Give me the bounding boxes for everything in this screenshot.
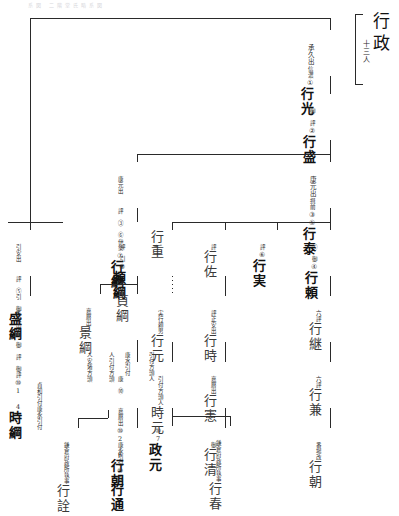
node-n19-order: ⑩7: [154, 427, 161, 443]
node-n9[interactable]: 頼綱 ⑧ 評 引: [112, 230, 125, 301]
node-n5-note-left: 評: [259, 244, 265, 250]
node-n6-name: 行佐: [203, 250, 216, 280]
node-n11-order: ⑩1 4: [14, 379, 21, 411]
annotation-col-n18-dup: 引付方頭人: [148, 352, 154, 382]
node-n4-note-left: ⑤ 御: [311, 244, 317, 262]
line-n21-to-n22: [225, 342, 226, 362]
line-n6-to-n21: [225, 276, 226, 296]
node-n22-note-left: 嘉暦出: [210, 376, 216, 394]
node-n22[interactable]: 行憲 嘉暦出: [203, 362, 216, 424]
annotation-col-n28: 人安堵方頭: [86, 352, 92, 382]
node-n3-note-right: 摂前: [309, 198, 315, 210]
node-n15-note-left: 康永引付: [117, 442, 123, 466]
node-n26-name: 行朝: [308, 460, 321, 490]
annotation-n29: 康水引付: [124, 352, 130, 376]
node-n14-note-left2: 康 ⑩: [117, 376, 123, 394]
annotation-n28: 人安堵方頭: [86, 352, 92, 382]
node-n15-order: ⑩5: [116, 467, 123, 483]
node-n26[interactable]: 行朝 番場改: [308, 428, 321, 490]
node-n14-note-left: 嘉暦出: [117, 408, 123, 426]
gen3-drop-n3: [330, 154, 331, 162]
node-n5[interactable]: 行実 ⑥ 評: [252, 230, 265, 289]
chart-title: 行政: [368, 12, 393, 56]
node-n12-note-left: 嘉暦出: [85, 308, 91, 326]
gen4-drop-n6: [225, 222, 226, 230]
node-n21-note-left: 評正安出: [210, 310, 216, 334]
node-n25[interactable]: 行兼 六評: [308, 362, 321, 418]
line-n24-to-n25: [330, 342, 331, 362]
node-n16-note-left: 鎌倉府政所執事: [63, 442, 69, 484]
annotation-col-n27: 人引付方頭: [108, 352, 114, 382]
node-n19-name: 政元: [148, 443, 161, 473]
gen3-horizontal-bar: [137, 154, 331, 155]
node-n2-note-left: 御 評: [309, 108, 315, 126]
node-n3-order: ③⑤: [308, 211, 315, 227]
node-n25-note-left: 六評: [315, 376, 321, 388]
drop-to-n16: [78, 418, 79, 428]
node-n21-name: 行時: [203, 334, 216, 364]
gen4-left-bar: [8, 222, 63, 223]
bar-to-n16: [78, 418, 108, 419]
line-n10-to-n11: [30, 276, 31, 296]
node-n24[interactable]: 行継 六評: [308, 296, 321, 352]
node-n16-name: 行詮: [56, 484, 69, 514]
line-n17-to-n18: [172, 342, 173, 362]
node-n13[interactable]: 貞綱: [115, 294, 128, 324]
riser-to-n16-bar: [108, 410, 109, 418]
gen-bar-n12-n13: [100, 284, 138, 285]
line-n9-drop: [137, 276, 138, 284]
node-n11[interactable]: 時綱 ⑩1 4 御 評 御評 応長出: [8, 296, 21, 441]
node-n20-note-left: 鎌倉府政所執事: [215, 440, 221, 482]
node-n18-note-left: 引付方頭人: [157, 376, 163, 406]
node-n25-name: 行兼: [308, 388, 321, 418]
gen4-drop-n7: [172, 222, 173, 230]
line-n2-to-gen3-bar: [330, 140, 331, 154]
node-n2-name: 行盛: [302, 135, 315, 165]
node-n24-name: 行継: [308, 322, 321, 352]
node-n15[interactable]: 行通 ⑩5 康永引付: [110, 428, 123, 513]
node-n17-note-left: 実行頼男: [157, 310, 163, 334]
node-n3-note-left: 康元出: [308, 176, 315, 197]
drop-to-n12: [100, 284, 101, 294]
node-n11-note-left: 応長出: [15, 310, 21, 328]
line-n18-drop: [172, 408, 173, 416]
line-n3-to-gen4-bar: [330, 208, 331, 222]
chart-title-annotation: 十三人: [361, 40, 371, 64]
node-n20-name: 行春: [208, 482, 221, 512]
annotation-n18-note: 引付方頭人: [148, 352, 154, 382]
title-bracket-top: [355, 14, 363, 15]
node-n5-order: ⑥: [258, 251, 265, 259]
node-n1-note-right: 信濃: [307, 66, 313, 78]
node-n15-name: 行通: [110, 483, 123, 513]
gen4-horizontal-bar: [172, 222, 331, 223]
node-n12[interactable]: 景綱 嘉暦出: [78, 294, 91, 356]
node-n4[interactable]: 行頼 ④ ⑤ 御: [304, 230, 317, 301]
node-n11-name: 時綱: [8, 411, 21, 441]
node-n16[interactable]: 行詮 鎌倉府政所執事: [56, 428, 69, 514]
node-n19[interactable]: 政元 ⑩7: [148, 426, 161, 473]
node-n20[interactable]: 行春 鎌倉府政所執事: [208, 426, 221, 512]
node-n21[interactable]: 行時 評正安出: [203, 296, 216, 364]
genealogy-chart: 系図 二階堂氏略系図 行政 十三人 行光 ① 信濃 承久出 行盛 ② 御 評 行…: [0, 0, 399, 516]
line-n14-to-n15: [137, 408, 138, 428]
node-n9-note-left: 評 引: [119, 244, 125, 262]
node-n10-note-left: 引安出: [15, 244, 21, 262]
line-n25-to-n26: [330, 408, 331, 428]
title-bracket-vertical: [355, 14, 356, 84]
node-n11-extra-notes: 康永引付 貞和引付: [36, 366, 42, 430]
faint-header-text: 系図 二階堂氏略系図: [28, 1, 105, 8]
root-horizontal-line: [30, 18, 330, 19]
node-n13-name: 貞綱: [115, 294, 128, 324]
node-n8-note-left: 康元出: [117, 176, 123, 194]
line-n13-to-n14: [137, 340, 138, 362]
annotation-n27: 人引付方頭: [108, 352, 114, 382]
drop-to-n13: [137, 284, 138, 294]
node-n7[interactable]: 行重: [150, 230, 163, 260]
drop-to-n19: [172, 416, 173, 426]
node-n9-order: ⑧: [118, 263, 125, 271]
gen4-drop-n5: [277, 222, 278, 230]
left-spine: [30, 18, 31, 154]
node-n6[interactable]: 行佐 評: [203, 230, 216, 280]
node-n14-note-left4: 貞和引付: [36, 382, 42, 406]
node-n4-order: ④: [310, 263, 317, 271]
